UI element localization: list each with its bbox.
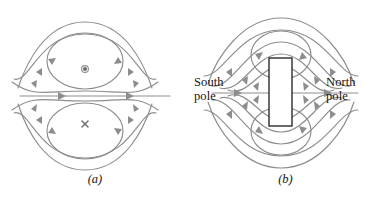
arrow-b-upper-third-right [303,82,309,91]
arrow-b-lower-third-right [303,95,309,104]
arrow-b-upper-inner-left [255,52,263,60]
arrow-b-upper-inner-right [299,52,307,60]
figure-container: (a) [0,0,381,199]
current-into-page-cross-icon [82,121,88,127]
arrow-b-upper-third-left [253,82,259,91]
field-line-lower-inner-loop [47,103,123,159]
south-pole-label: South pole [194,76,224,103]
arrow-upper-inner-right [114,57,122,64]
arrow-upper-flat-right [133,80,139,88]
field-line-lower-middle [14,113,156,158]
arrow-lower-inner-left [48,127,56,134]
arrow-b-lower-inner-left [255,126,263,134]
arrow-axis-left [58,92,66,100]
arrow-upper-middle-left [36,68,42,76]
arrow-b-lower-third-left [253,95,259,104]
current-out-of-page-dot-icon [82,66,89,73]
arrow-b-lower-outer-left [226,110,232,119]
arrow-lower-flat-right [133,104,139,112]
panel-a-current-loop: (a) [0,0,190,199]
arrow-upper-flat-left [31,80,37,88]
arrow-lower-inner-right [114,128,122,135]
arrow-lower-middle-left [36,116,42,124]
field-line-upper-outer [18,22,152,88]
bar-magnet [269,58,292,126]
panel-b-bar-magnet: South pole North pole (b) [190,0,381,199]
arrow-lower-flat-left [31,104,37,112]
arrow-lower-middle-right [128,116,134,124]
panel-b-caption: (b) [190,172,381,187]
arrow-b-lower-inner-right [299,126,307,134]
field-line-upper-inner-loop [47,33,123,89]
panel-a-caption: (a) [0,172,190,187]
arrow-b-upper-outer-left [226,68,232,77]
arrow-upper-inner-left [48,58,56,65]
north-pole-label: North pole [326,76,356,103]
panel-a-diagram [0,0,190,199]
arrow-b-lower-outer-right [330,110,336,119]
arrow-axis-right [126,92,134,100]
field-line-lower-outer [18,104,152,170]
arrow-upper-middle-right [128,68,134,76]
